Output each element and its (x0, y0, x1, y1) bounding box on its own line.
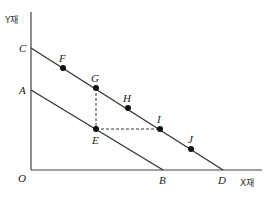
origin-label: O (18, 172, 26, 184)
point-G (93, 85, 99, 91)
label-B: B (159, 174, 166, 186)
label-D: D (217, 174, 226, 186)
point-H (125, 105, 131, 111)
point-J (188, 146, 194, 152)
label-G: G (91, 72, 99, 84)
label-C: C (19, 42, 27, 54)
y-axis-label: Y재 (4, 15, 19, 25)
point-I (157, 126, 163, 132)
label-J: J (188, 133, 194, 145)
label-A: A (18, 84, 26, 96)
label-I: I (156, 113, 162, 125)
x-axis-label: X재 (240, 178, 254, 188)
label-E: E (91, 134, 99, 146)
label-F: F (58, 52, 66, 64)
point-E (93, 126, 99, 132)
label-H: H (122, 92, 132, 104)
diagram: Y재 X재 O C A B D F G H I J E (0, 0, 272, 202)
point-F (60, 65, 66, 71)
